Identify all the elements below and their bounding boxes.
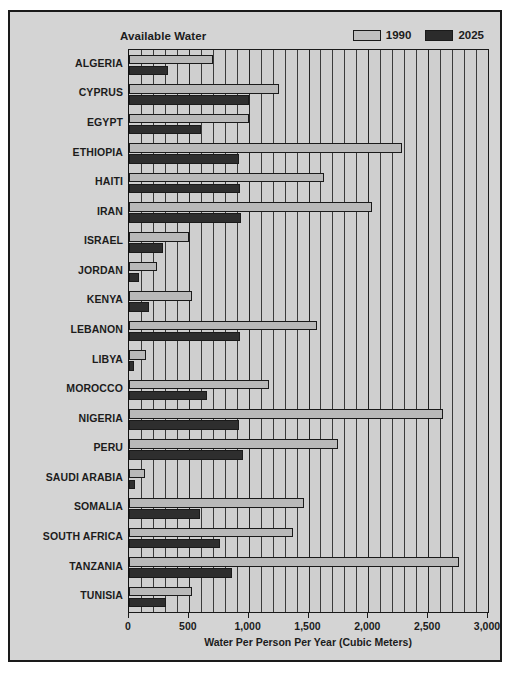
category-label-egypt: EGYPT xyxy=(10,116,123,128)
chart-figure: Available Water 1990 2025 ALGERIACYPRUSE… xyxy=(8,10,502,662)
x-tick xyxy=(248,612,249,618)
bar-tanzania-1990 xyxy=(129,557,459,567)
bar-tanzania-2025 xyxy=(129,568,232,578)
category-label-morocco: MOROCCO xyxy=(10,382,123,394)
category-label-nigeria: NIGERIA xyxy=(10,412,123,424)
bar-south-africa-1990 xyxy=(129,528,293,538)
category-label-saudi-arabia: SAUDI ARABIA xyxy=(10,471,123,483)
bar-haiti-1990 xyxy=(129,173,324,183)
bar-kenya-1990 xyxy=(129,291,192,301)
bar-somalia-2025 xyxy=(129,509,200,519)
category-label-tanzania: TANZANIA xyxy=(10,560,123,572)
legend-entry-2025: 2025 xyxy=(425,29,484,41)
bar-libya-1990 xyxy=(129,350,146,360)
bar-lebanon-1990 xyxy=(129,321,317,331)
bar-tunisia-1990 xyxy=(129,587,192,597)
category-label-iran: IRAN xyxy=(10,205,123,217)
bar-jordan-1990 xyxy=(129,262,157,272)
bar-egypt-2025 xyxy=(129,125,201,135)
x-tick-label: 1,000 xyxy=(235,620,261,632)
bar-cyprus-2025 xyxy=(129,95,249,105)
bar-algeria-1990 xyxy=(129,55,213,65)
bar-iran-2025 xyxy=(129,213,241,223)
x-tick-label: 500 xyxy=(179,620,197,632)
bar-egypt-1990 xyxy=(129,114,249,124)
bar-israel-1990 xyxy=(129,232,189,242)
bar-israel-2025 xyxy=(129,243,163,253)
category-label-israel: ISRAEL xyxy=(10,234,123,246)
chart-title: Available Water xyxy=(120,30,206,42)
x-tick-label: 0 xyxy=(125,620,131,632)
legend-label-2025: 2025 xyxy=(458,29,484,41)
bar-somalia-1990 xyxy=(129,498,304,508)
x-tick xyxy=(367,612,368,618)
category-label-lebanon: LEBANON xyxy=(10,323,123,335)
x-tick xyxy=(188,612,189,618)
bar-cyprus-1990 xyxy=(129,84,279,94)
x-tick-label: 2,000 xyxy=(354,620,380,632)
bar-ethiopia-1990 xyxy=(129,143,402,153)
legend-entry-1990: 1990 xyxy=(353,29,412,41)
bar-nigeria-1990 xyxy=(129,409,443,419)
bar-morocco-2025 xyxy=(129,391,207,401)
category-label-cyprus: CYPRUS xyxy=(10,86,123,98)
bar-saudi-arabia-2025 xyxy=(129,480,135,490)
x-tick xyxy=(427,612,428,618)
bar-haiti-2025 xyxy=(129,184,240,194)
bar-algeria-2025 xyxy=(129,66,168,76)
bar-tunisia-2025 xyxy=(129,598,166,608)
bar-ethiopia-2025 xyxy=(129,154,239,164)
legend-swatch-1990-icon xyxy=(353,30,381,41)
chart-legend: 1990 2025 xyxy=(353,29,484,41)
x-tick xyxy=(308,612,309,618)
category-label-tunisia: TUNISIA xyxy=(10,589,123,601)
category-label-south-africa: SOUTH AFRICA xyxy=(10,530,123,542)
bar-morocco-1990 xyxy=(129,380,269,390)
x-tick-label: 2,500 xyxy=(414,620,440,632)
bar-peru-2025 xyxy=(129,450,243,460)
bar-peru-1990 xyxy=(129,439,338,449)
category-label-algeria: ALGERIA xyxy=(10,57,123,69)
bar-saudi-arabia-1990 xyxy=(129,469,145,479)
bar-jordan-2025 xyxy=(129,273,139,283)
bar-nigeria-2025 xyxy=(129,420,239,430)
bar-series-container xyxy=(129,50,488,612)
x-tick xyxy=(128,612,129,618)
plot-area xyxy=(128,49,489,613)
category-label-libya: LIBYA xyxy=(10,353,123,365)
bar-lebanon-2025 xyxy=(129,332,240,342)
x-tick-label: 3,000 xyxy=(474,620,500,632)
bar-iran-1990 xyxy=(129,202,372,212)
category-label-kenya: KENYA xyxy=(10,293,123,305)
bar-south-africa-2025 xyxy=(129,539,220,549)
category-label-jordan: JORDAN xyxy=(10,264,123,276)
legend-label-1990: 1990 xyxy=(386,29,412,41)
x-tick xyxy=(487,612,488,618)
bar-libya-2025 xyxy=(129,361,134,371)
category-label-haiti: HAITI xyxy=(10,175,123,187)
x-axis-title: Water Per Person Per Year (Cubic Meters) xyxy=(128,636,488,648)
category-label-ethiopia: ETHIOPIA xyxy=(10,146,123,158)
legend-swatch-2025-icon xyxy=(425,30,453,41)
category-axis-labels: ALGERIACYPRUSEGYPTETHIOPIAHAITIIRANISRAE… xyxy=(10,49,123,611)
bar-kenya-2025 xyxy=(129,302,149,312)
category-label-somalia: SOMALIA xyxy=(10,500,123,512)
x-tick-label: 1,500 xyxy=(294,620,320,632)
category-label-peru: PERU xyxy=(10,441,123,453)
